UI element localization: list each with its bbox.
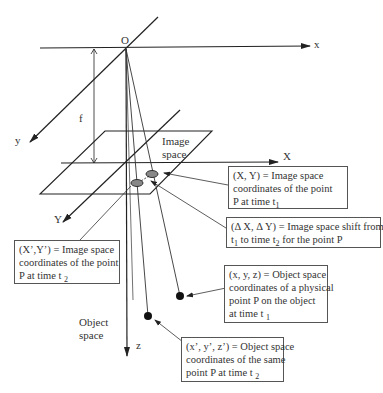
callout-text: (Δ X, Δ Y) = Image space shift from time [231,220,376,233]
image-shift-arrow [141,176,149,181]
leader-shift [151,181,226,228]
x-axis-label: x [314,38,320,50]
object-point-t2 [144,312,152,320]
image-y-axis-label: Y [54,213,62,225]
leader-object-t1 [187,288,226,296]
callout-text: (X’,Y’) = Image space [19,243,115,256]
callout-text: P at time t [233,196,275,207]
callout-text: coordinates of the point [19,256,115,269]
subscript: 1 [275,201,279,210]
callout-object-coords-t1: (x, y, z) = Object space coordinates of … [224,265,328,323]
image-point-t2 [131,180,143,187]
callout-image-coords-t1: (X, Y) = Image space coordinates of the … [228,166,348,209]
callout-text: (x, y, z) = Object space [229,268,323,281]
image-y-axis [63,110,180,222]
callout-text: to time t [238,234,276,245]
image-space-label-1: Image [162,135,189,147]
object-point-t1 [176,292,184,300]
callout-text: at time t [229,308,266,319]
focal-length-label: f [79,112,83,124]
callout-text: point P at time t [186,367,255,378]
callout-text: coordinates of a physical [229,281,323,294]
callout-text: coordinates of the point [233,182,343,195]
subscript: 1 [266,313,270,322]
object-space-label-1: Object [79,316,108,328]
object-space-label-2: space [79,329,103,341]
origin-label: O [121,34,129,46]
leader-object-t2 [155,320,183,342]
subscript: 2 [64,275,68,284]
x-axis [40,46,310,48]
z-axis [126,49,127,356]
y-axis-label: y [15,134,21,146]
callout-text: (x’, y’, z’) = Object space [186,340,279,353]
callout-text: point P on the object [229,294,323,307]
callout-text: coordinates of the same [186,353,279,366]
z-axis-label: z [136,339,141,351]
callout-text: (X, Y) = Image space [233,169,343,182]
subscript: 2 [255,372,259,381]
leader-image-t1 [164,173,228,185]
callout-text: P at time t [19,270,64,281]
callout-image-coords-t2: (X’,Y’) = Image space coordinates of the… [14,240,120,284]
callout-object-coords-t2: (x’, y’, z’) = Object space coordinates … [181,337,284,382]
callout-text: for the point P [280,234,343,245]
image-x-axis-label: X [283,150,291,162]
callout-image-shift: (Δ X, Δ Y) = Image space shift from time… [226,217,381,248]
image-space-label-2: space [162,148,186,160]
